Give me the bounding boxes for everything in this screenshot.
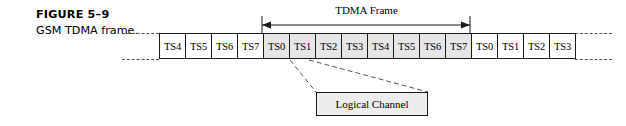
figure-title: GSM TDMA frame.: [36, 23, 148, 39]
timeslot-cell[interactable]: TS4: [160, 34, 186, 58]
timeslot-cell[interactable]: TS0: [472, 34, 498, 58]
timeslot-cell[interactable]: TS0: [264, 34, 290, 58]
continuation-line-left-top: [122, 33, 159, 34]
timeslot-cell[interactable]: TS4: [368, 34, 394, 58]
timeslot-cell[interactable]: TS1: [290, 34, 316, 58]
logical-channel-callout: Logical Channel: [316, 92, 428, 116]
gsm-tdma-frame-figure: FIGURE 5–9 GSM TDMA frame. TDMA Frame TS…: [0, 0, 626, 126]
logical-channel-label: Logical Channel: [335, 98, 408, 110]
timeslot-cell[interactable]: TS7: [238, 34, 264, 58]
timeslot-cell[interactable]: TS2: [316, 34, 342, 58]
timeslot-cell[interactable]: TS5: [394, 34, 420, 58]
timeslot-cell[interactable]: TS6: [212, 34, 238, 58]
timeslot-cell[interactable]: TS7: [446, 34, 472, 58]
timeslot-cell[interactable]: TS1: [498, 34, 524, 58]
timeslot-strip: TS4 TS5 TS6 TS7 TS0 TS1 TS2 TS3 TS4 TS5 …: [159, 33, 576, 59]
timeslot-cell[interactable]: TS6: [420, 34, 446, 58]
timeslot-cell[interactable]: TS5: [186, 34, 212, 58]
figure-number: FIGURE 5–9: [36, 7, 148, 23]
continuation-line-right-bottom: [575, 59, 612, 60]
timeslot-cell[interactable]: TS3: [550, 34, 576, 58]
timeslot-cell[interactable]: TS2: [524, 34, 550, 58]
timeslot-cell[interactable]: TS3: [342, 34, 368, 58]
continuation-line-left-bottom: [122, 59, 159, 60]
tdma-frame-label: TDMA Frame: [262, 4, 471, 16]
continuation-line-right-top: [575, 33, 612, 34]
